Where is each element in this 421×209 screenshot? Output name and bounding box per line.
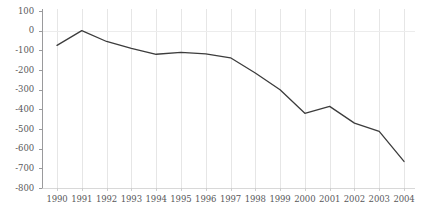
x-axis-tick-label: 1993 xyxy=(121,195,142,204)
x-axis-tick-label: 1994 xyxy=(146,195,167,204)
x-axis-labels: 1990199119921993199419951996199719981999… xyxy=(0,0,421,209)
x-axis-tick-label: 1996 xyxy=(195,195,216,204)
x-axis-tick-label: 2003 xyxy=(369,195,390,204)
x-axis-tick-label: 1991 xyxy=(71,195,92,204)
x-axis-tick-label: 1995 xyxy=(170,195,191,204)
x-axis-tick-label: 1997 xyxy=(220,195,241,204)
x-axis-tick-label: 1998 xyxy=(245,195,266,204)
x-axis-tick-label: 2001 xyxy=(319,195,340,204)
x-axis-tick-label: 2002 xyxy=(344,195,365,204)
x-axis-tick-label: 2000 xyxy=(294,195,315,204)
x-axis-tick-label: 1992 xyxy=(96,195,117,204)
line-chart: 1000-100-200-300-400-500-600-700-800 199… xyxy=(0,0,421,209)
x-axis-tick-label: 1999 xyxy=(269,195,290,204)
x-axis-tick-label: 2004 xyxy=(393,195,414,204)
x-axis-tick-label: 1990 xyxy=(46,195,67,204)
